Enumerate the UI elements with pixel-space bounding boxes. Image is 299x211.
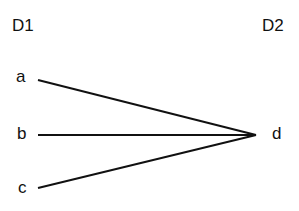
edge-c-d xyxy=(38,135,256,188)
edge-a-d xyxy=(38,80,256,135)
edges-layer xyxy=(0,0,299,211)
